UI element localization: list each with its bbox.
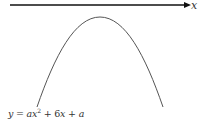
parabola-curve [37, 17, 163, 107]
eq-equals: = [13, 108, 26, 119]
parabola-equation: y = ax2 + 6x + a [8, 108, 84, 119]
x-axis-label: x [191, 0, 197, 12]
eq-plus: + [65, 108, 78, 119]
parabola-diagram: x y = ax2 + 6x + a [0, 0, 209, 138]
eq-const-a: a [79, 108, 84, 119]
eq-plus-6: + 6 [41, 108, 60, 119]
x-axis-arrowhead-icon [184, 2, 191, 8]
